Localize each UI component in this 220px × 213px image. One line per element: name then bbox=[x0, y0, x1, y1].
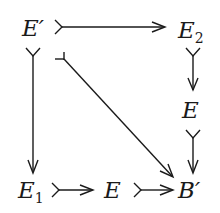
arrow-eprime-to-bprime-diagonal bbox=[55, 52, 173, 177]
arrow-e2-to-e bbox=[186, 48, 200, 90]
node-e-bottom: E bbox=[103, 177, 121, 203]
arrow-e-to-bprime bbox=[186, 130, 200, 173]
node-e-prime: E′ bbox=[21, 15, 45, 41]
node-b-prime: B′ bbox=[177, 177, 201, 203]
node-e1: E1 bbox=[17, 177, 44, 206]
arrow-e-to-bprime-bottom bbox=[134, 183, 173, 197]
arrow-e1-to-e bbox=[52, 183, 93, 197]
commutative-diagram: E′ E2 E E1 E B′ bbox=[0, 0, 220, 213]
arrow-eprime-to-e1 bbox=[26, 48, 40, 173]
node-e2: E2 bbox=[177, 17, 204, 46]
arrow-eprime-to-e2 bbox=[55, 20, 165, 34]
node-e-right: E bbox=[181, 97, 199, 123]
